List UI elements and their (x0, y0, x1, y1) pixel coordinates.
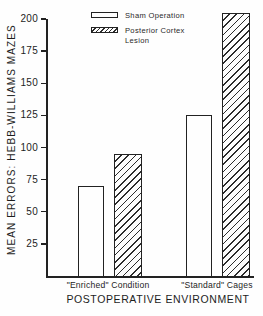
legend-label: Posterior Cortex Lesion (125, 26, 199, 46)
bar-hatched-category-0 (114, 154, 142, 276)
y-tick (41, 115, 46, 116)
y-tick (41, 50, 46, 51)
y-tick (41, 243, 46, 244)
y-tick-label: 200 (4, 13, 38, 24)
y-tick (41, 18, 46, 19)
legend-item-sham: Sham Operation (91, 11, 251, 21)
legend-label: Sham Operation (125, 11, 185, 21)
x-category-label-standard: "Standard" Cages (181, 280, 252, 290)
legend: Sham Operation Posterior Cortex Lesion (91, 11, 251, 51)
x-category-label-enriched: "Enriched" Condition (67, 280, 150, 290)
x-axis-line (46, 276, 254, 278)
legend-item-lesion: Posterior Cortex Lesion (91, 26, 251, 46)
bar-hatched-category-1 (222, 13, 250, 276)
y-tick (41, 147, 46, 148)
bar-plain-category-0 (78, 186, 104, 276)
y-axis-line (46, 19, 48, 278)
y-tick-label: 50 (4, 206, 38, 217)
sham-operation-swatch-icon (91, 12, 118, 18)
bar-chart-figure: MEAN ERRORS: HEBB-WILLIAMS MAZES 2550751… (0, 0, 263, 316)
y-tick-label: 150 (4, 77, 38, 88)
y-tick-label: 100 (4, 142, 38, 153)
y-tick (41, 83, 46, 84)
bar-plain-category-1 (186, 115, 212, 276)
y-tick-label: 125 (4, 109, 38, 120)
plot-area: 255075100125150175200 (46, 19, 254, 276)
x-axis-title: POSTOPERATIVE ENVIRONMENT (66, 293, 249, 305)
y-tick-label: 75 (4, 174, 38, 185)
posterior-cortex-lesion-swatch-icon (91, 27, 118, 33)
y-tick (41, 179, 46, 180)
y-tick-label: 25 (4, 238, 38, 249)
y-tick (41, 211, 46, 212)
y-tick-label: 175 (4, 45, 38, 56)
